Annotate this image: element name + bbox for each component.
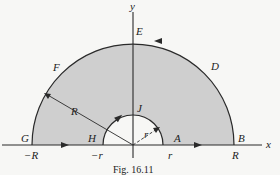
point-label-D: D <box>210 60 219 72</box>
tick-label-neg-R: −R <box>24 149 38 161</box>
point-label-A: A <box>173 132 181 144</box>
point-label-E: E <box>135 25 143 37</box>
arrow-outer-top-icon <box>154 38 162 44</box>
figure-caption: Fig. 16.11 <box>113 164 153 175</box>
tick-label-pos-R: R <box>231 149 239 161</box>
radius-label-R: R <box>70 105 78 117</box>
point-label-G: G <box>21 132 29 144</box>
point-label-B: B <box>238 132 245 144</box>
axis-label-x: x <box>265 138 271 150</box>
radius-label-r: r <box>144 128 149 140</box>
tick-label-pos-r: r <box>168 149 173 161</box>
tick-label-neg-r: −r <box>91 149 103 161</box>
point-label-F: F <box>52 61 60 73</box>
point-label-H: H <box>87 132 97 144</box>
contour-diagram: y x E D F G B H A J R r −R −r r R Fig. 1… <box>0 0 280 175</box>
axis-label-y: y <box>129 0 135 12</box>
